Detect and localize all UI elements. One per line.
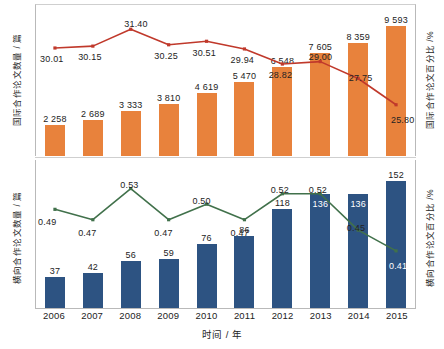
bar <box>159 104 179 156</box>
bar <box>197 244 217 308</box>
bottom-chart-panel: 374256597686118136136152 0.490.470.530.4… <box>35 160 416 309</box>
bar <box>310 53 330 156</box>
bar-value-label: 3 333 <box>119 100 143 110</box>
top-left-axis-title: 国际合作论文数量 / 篇 <box>10 34 22 127</box>
bar-slot: 4 619 <box>188 5 226 156</box>
bar-slot: 9 593 <box>377 5 415 156</box>
x-tick-2007: 2007 <box>73 310 111 321</box>
bar <box>121 261 141 308</box>
x-tick-2008: 2008 <box>111 310 149 321</box>
top-plot-area: 2 2582 6893 3333 8104 6195 4706 5487 605… <box>36 5 415 156</box>
bar-value-label: 76 <box>201 233 211 243</box>
bar <box>348 43 368 156</box>
bar-value-label: 152 <box>388 170 404 180</box>
x-tick-2009: 2009 <box>149 310 187 321</box>
line-value-label: 29.00 <box>309 52 333 62</box>
bar <box>272 67 292 156</box>
bar-value-label: 9 593 <box>384 15 408 25</box>
bar-value-label: 2 689 <box>81 109 105 119</box>
bar-value-label: 136 <box>350 199 366 209</box>
bar <box>272 209 292 308</box>
x-tick-2011: 2011 <box>225 310 263 321</box>
bar-value-label: 8 359 <box>346 32 370 42</box>
bar-value-label: 136 <box>312 199 328 209</box>
line-value-label: 28.82 <box>269 70 293 80</box>
line-value-label: 0.47 <box>78 228 96 238</box>
bar <box>83 273 103 308</box>
bar-slot: 152 <box>377 160 415 308</box>
bar-value-label: 6 548 <box>271 56 295 66</box>
x-axis-ticks: 2006200720082009201020112012201320142015 <box>35 310 416 321</box>
bar <box>386 26 406 156</box>
bar-slot: 2 689 <box>74 5 112 156</box>
line-value-label: 27.75 <box>349 73 373 83</box>
line-value-label: 0.49 <box>38 217 56 227</box>
bar-value-label: 42 <box>88 262 98 272</box>
bar <box>348 194 368 308</box>
bar-value-label: 2 258 <box>43 114 67 124</box>
bar <box>159 259 179 308</box>
bar-slot: 5 470 <box>226 5 264 156</box>
top-right-axis-title: 国际合作论文百分比 /% <box>423 31 435 129</box>
x-tick-2013: 2013 <box>302 310 340 321</box>
line-value-label: 0.47 <box>154 228 172 238</box>
bar-slot: 3 810 <box>150 5 188 156</box>
line-value-label: 30.15 <box>78 52 102 62</box>
bar <box>45 125 65 156</box>
bar-value-label: 56 <box>126 250 136 260</box>
bar <box>386 181 406 308</box>
line-value-label: 25.80 <box>391 115 415 125</box>
bottom-plot-area: 374256597686118136136152 0.490.470.530.4… <box>36 160 415 308</box>
bar <box>45 277 65 308</box>
x-axis-title: 时间 / 年 <box>0 327 444 341</box>
line-value-label: 31.40 <box>124 19 148 29</box>
bar-slot: 2 258 <box>36 5 74 156</box>
x-tick-2006: 2006 <box>35 310 73 321</box>
bar-value-label: 7 605 <box>309 42 333 52</box>
bottom-right-axis-title: 横向合作论文百分比 /% <box>423 189 435 287</box>
bar <box>83 120 103 156</box>
bar-slot: 7 605 <box>301 5 339 156</box>
x-tick-2014: 2014 <box>340 310 378 321</box>
bar <box>121 111 141 156</box>
chart-figure: 国际合作论文数量 / 篇 国际合作论文百分比 /% 横向合作论文数量 / 篇 横… <box>0 0 444 349</box>
bar-slot: 37 <box>36 160 74 308</box>
line-value-label: 30.01 <box>40 54 64 64</box>
line-value-label: 30.51 <box>192 48 216 58</box>
bar-value-label: 3 810 <box>157 93 181 103</box>
bar-value-label: 37 <box>50 266 60 276</box>
line-value-label: 0.47 <box>231 228 249 238</box>
bar-value-label: 4 619 <box>195 82 219 92</box>
bar-slot: 6 548 <box>263 5 301 156</box>
bottom-left-axis-title: 横向合作论文数量 / 篇 <box>10 192 22 285</box>
bar-slot: 118 <box>263 160 301 308</box>
line-value-label: 0.50 <box>192 196 210 206</box>
bar-value-label: 59 <box>163 248 173 258</box>
bar-value-label: 5 470 <box>233 71 257 81</box>
line-value-label: 0.53 <box>120 180 138 190</box>
line-value-label: 0.45 <box>347 223 365 233</box>
panel-divider <box>35 157 416 158</box>
line-value-label: 0.52 <box>309 185 327 195</box>
bar-slot: 76 <box>188 160 226 308</box>
bar-value-label: 118 <box>275 198 290 208</box>
bar <box>234 82 254 156</box>
top-chart-panel: 2 2582 6893 3333 8104 6195 4706 5487 605… <box>35 4 416 156</box>
bar <box>234 236 254 308</box>
x-tick-2012: 2012 <box>264 310 302 321</box>
line-value-label: 0.52 <box>271 185 289 195</box>
x-tick-2015: 2015 <box>378 310 416 321</box>
line-value-label: 0.41 <box>389 261 407 271</box>
bar-slot: 136 <box>301 160 339 308</box>
line-value-label: 29.94 <box>231 55 255 65</box>
bar <box>197 93 217 156</box>
x-tick-2010: 2010 <box>187 310 225 321</box>
line-value-label: 30.25 <box>154 51 178 61</box>
bar-slot: 136 <box>339 160 377 308</box>
bar <box>310 194 330 308</box>
